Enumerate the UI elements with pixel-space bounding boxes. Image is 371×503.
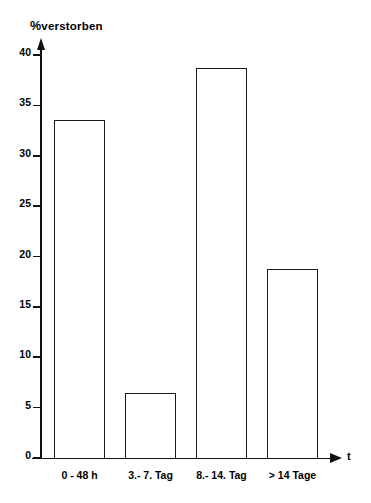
bar xyxy=(267,269,318,458)
y-axis-title: %verstorben xyxy=(30,20,103,33)
y-axis-tick-label: 5 xyxy=(25,400,31,411)
y-axis-tick-label: 20 xyxy=(19,249,31,260)
y-axis-tick-label: 30 xyxy=(19,148,31,159)
y-axis-tick-mark xyxy=(33,306,41,308)
bar-chart-figure: %verstorben t 0510152025303540 0 - 48 h3… xyxy=(0,0,371,503)
y-axis-tick-mark xyxy=(33,457,41,459)
y-axis-tick-mark xyxy=(33,105,41,107)
percent-symbol: % xyxy=(30,19,41,33)
x-axis-arrow-icon xyxy=(330,453,342,463)
y-axis-tick-mark xyxy=(33,407,41,409)
y-axis-tick-mark xyxy=(33,54,41,56)
bar xyxy=(125,393,176,458)
y-axis-tick-mark xyxy=(33,256,41,258)
x-axis-label: t xyxy=(347,450,351,462)
y-axis-tick-mark xyxy=(33,356,41,358)
y-axis-tick-label: 40 xyxy=(19,47,31,58)
x-axis-category-label: > 14 Tage xyxy=(248,470,338,481)
y-axis-tick-label: 15 xyxy=(19,299,31,310)
y-axis-arrow-icon xyxy=(37,38,45,50)
y-axis-tick-label: 0 xyxy=(25,450,31,461)
y-axis-tick-label: 35 xyxy=(19,97,31,108)
y-axis-tick-mark xyxy=(33,205,41,207)
y-axis-tick-mark xyxy=(33,155,41,157)
bar xyxy=(196,68,247,458)
y-axis-tick-label: 10 xyxy=(19,349,31,360)
bar xyxy=(54,120,105,458)
y-axis-tick-label: 25 xyxy=(19,198,31,209)
y-axis-line xyxy=(40,48,42,459)
y-axis-title-text: verstorben xyxy=(41,20,102,32)
